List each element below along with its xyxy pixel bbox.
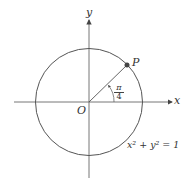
circle-equation: x² + y² = 1 xyxy=(127,139,179,150)
point-p xyxy=(125,63,130,68)
point-label: P xyxy=(132,56,139,69)
unit-circle-diagram: y x O P π 4 x² + y² = 1 xyxy=(0,0,191,189)
diagram-canvas xyxy=(0,0,191,189)
origin-label: O xyxy=(77,104,86,117)
angle-label: π 4 xyxy=(114,84,124,101)
angle-denominator: 4 xyxy=(114,93,124,101)
y-axis-label: y xyxy=(86,6,92,19)
x-axis-label: x xyxy=(174,94,180,107)
